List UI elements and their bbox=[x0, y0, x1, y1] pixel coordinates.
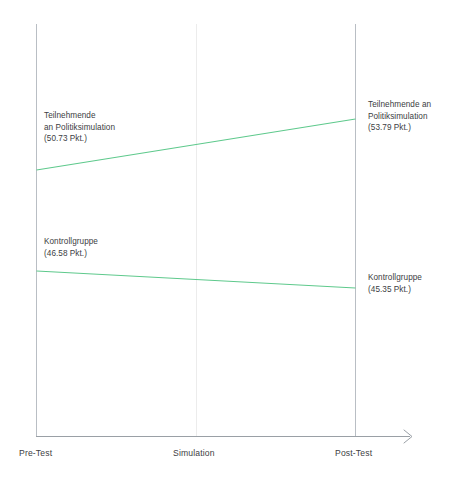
annotation-line: Kontrollgruppe bbox=[368, 272, 422, 284]
annotation-line: (53.79 Pkt.) bbox=[368, 122, 431, 134]
x-tick-label-simulation: Simulation bbox=[173, 449, 215, 458]
x-tick-label-post-test: Post-Test bbox=[335, 449, 372, 458]
annotation-line: Politiksimulation bbox=[368, 111, 431, 123]
annotation-line: Teilnehmende an bbox=[368, 99, 431, 111]
slope-chart-figure: Teilnehmende an Politiksimulation (50.73… bbox=[0, 0, 467, 487]
annotation-line: (50.73 Pkt.) bbox=[44, 133, 115, 145]
annotation-teilnehmende-end: Teilnehmende an Politiksimulation (53.79… bbox=[368, 99, 431, 134]
annotation-kontrollgruppe-end: Kontrollgruppe (45.35 Pkt.) bbox=[368, 272, 422, 295]
annotation-kontrollgruppe-start: Kontrollgruppe (46.58 Pkt.) bbox=[44, 236, 98, 259]
annotation-line: (46.58 Pkt.) bbox=[44, 248, 98, 260]
annotation-line: (45.35 Pkt.) bbox=[368, 284, 422, 296]
annotation-teilnehmende-start: Teilnehmende an Politiksimulation (50.73… bbox=[44, 110, 115, 145]
annotation-line: Kontrollgruppe bbox=[44, 236, 98, 248]
x-tick-label-pre-test: Pre-Test bbox=[19, 449, 52, 458]
annotation-line: an Politiksimulation bbox=[44, 122, 115, 134]
annotation-line: Teilnehmende bbox=[44, 110, 115, 122]
